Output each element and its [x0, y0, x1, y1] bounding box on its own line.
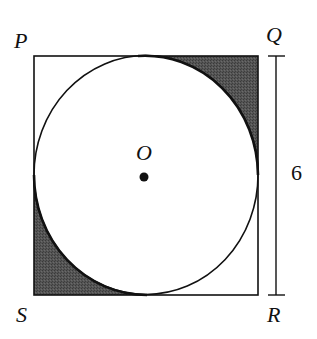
geometry-diagram: P Q R S O 6	[0, 0, 317, 339]
vertex-label-r: R	[266, 302, 281, 327]
vertex-label-s: S	[16, 302, 27, 327]
vertex-label-q: Q	[266, 22, 282, 47]
shaded-region-q	[138, 56, 258, 175]
side-length-label: 6	[291, 160, 302, 185]
center-label-o: O	[136, 140, 152, 165]
shaded-region-s	[34, 175, 147, 295]
center-point-o	[140, 173, 149, 182]
vertex-label-p: P	[13, 28, 27, 53]
